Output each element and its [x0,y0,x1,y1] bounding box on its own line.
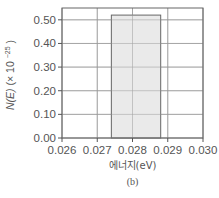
y-axis-label-scale: (× 10 [4,61,16,85]
y-tick-label: 0.20 [34,85,56,97]
histogram-bar [111,15,160,138]
x-tick-label: 0.027 [83,144,112,156]
x-axis-label: 에너지(eV) [109,160,157,171]
y-tick-label: 0.10 [34,108,56,120]
y-tick-label: 0.30 [34,61,56,73]
chart: 0.000.100.200.300.400.50 0.0260.0270.028… [0,0,219,198]
y-axis-label-exponent: −25 [4,46,11,58]
x-tick-label: 0.030 [189,144,218,156]
x-tick-label: 0.028 [118,144,147,156]
y-axis-ticks: 0.000.100.200.300.400.50 [34,14,62,144]
y-tick-label: 0.40 [34,37,56,49]
x-axis-ticks: 0.0260.0270.0280.0290.030 [48,138,218,156]
grid-overlay [62,8,203,138]
figure-caption: (b) [127,176,139,188]
y-tick-label: 0.50 [34,14,56,26]
y-axis-label-main: N(E) [4,88,16,110]
y-tick-label: 0.00 [34,132,56,144]
y-axis-label-close: ) [4,40,16,44]
x-tick-label: 0.029 [153,144,182,156]
x-tick-label: 0.026 [48,144,77,156]
y-axis-label: N(E) (× 10 −25 ) [0,40,16,110]
histogram-bars [62,8,203,138]
